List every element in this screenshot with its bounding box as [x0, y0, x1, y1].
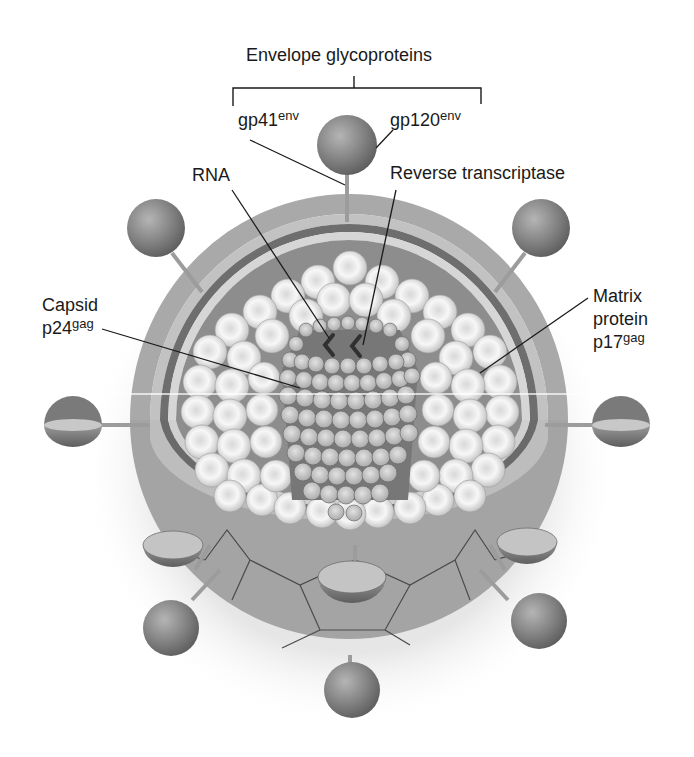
gp41-sup: env	[278, 108, 299, 123]
reverse-transcriptase-label: Reverse transcriptase	[390, 162, 565, 185]
capsid-label: Capsid p24gag	[42, 294, 98, 340]
matrix-line1: Matrix	[593, 285, 648, 308]
matrix-line3: p17gag	[593, 331, 648, 354]
hiv-virion-diagram	[0, 0, 694, 757]
gp120-base: gp120	[390, 110, 440, 130]
gp41-base: gp41	[238, 110, 278, 130]
matrix-base: p17	[593, 332, 623, 352]
matrix-protein-label: Matrix protein p17gag	[593, 285, 648, 354]
envelope-glycoproteins-label: Envelope glycoproteins	[246, 44, 432, 67]
capsid-sup: gag	[72, 316, 94, 331]
matrix-line2: protein	[593, 308, 648, 331]
matrix-sup: gag	[623, 330, 645, 345]
gp120-sup: env	[440, 108, 461, 123]
gp120-label: gp120env	[390, 109, 461, 132]
gp41-label: gp41env	[238, 109, 299, 132]
envelope-bracket	[233, 76, 481, 106]
capsid-base: p24	[42, 318, 72, 338]
rna-label: RNA	[192, 164, 230, 187]
capsid-line1: Capsid	[42, 294, 98, 317]
capsid-cone	[279, 316, 420, 521]
gp120-leader	[376, 130, 393, 148]
capsid-line2: p24gag	[42, 317, 98, 340]
